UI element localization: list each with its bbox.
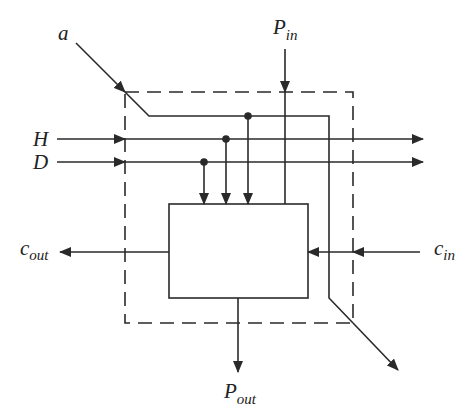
a-signal-path [125,92,353,323]
cell-diagram: a H D Pin Pout cin cout [0,0,470,412]
a-input-arrow [76,43,125,92]
label-d: D [32,150,48,174]
label-c-out: cout [20,236,49,263]
dashed-boundary [125,92,353,323]
label-p-out: Pout [223,379,257,407]
processing-cell-box [169,204,308,298]
label-a: a [58,21,69,45]
label-h: H [32,127,50,151]
label-p-in: Pin [272,15,298,43]
label-c-in: cin [434,236,455,263]
a-output-arrow [353,323,398,370]
